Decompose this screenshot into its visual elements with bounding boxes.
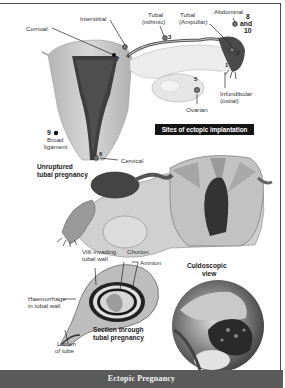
label-lumen-line1: Lumen [57, 340, 76, 347]
unruptured-tubal-pregnancy-drawing [57, 156, 272, 258]
site-number-3: 3 [168, 34, 171, 40]
label-amnion: Amnion [140, 259, 161, 266]
uterus-diagram [42, 37, 245, 161]
abdominal-site-number-10: 10 [244, 27, 252, 34]
site-number-5: 5 [194, 76, 197, 82]
label-abdominal: Abdominal [214, 8, 243, 15]
sites-of-ectopic-implantation-badge: Sites of ectopic implantation [155, 124, 254, 135]
site-number-7: 7 [116, 56, 119, 62]
label-section-caption-line2: tubal pregnancy [93, 334, 144, 342]
label-haemorrhage-line2: in tubal wall [28, 302, 60, 309]
site-number-2: 2 [236, 50, 239, 56]
label-chorion: Chorion [127, 248, 149, 255]
label-broad-ligament-line1: Broad [47, 136, 64, 143]
label-tubal-isthmic-line1: Tubal [148, 11, 163, 18]
label-haemorrhage-line1: Haemorrhage [28, 295, 66, 302]
broad-ligament-site-number: 9 [47, 129, 51, 136]
label-infundibular-line1: Infundibular [220, 90, 252, 97]
label-ovarian: Ovarian [186, 106, 208, 113]
label-villi-line2: tubal wall [82, 255, 108, 262]
culdoscopic-view-circle [172, 280, 264, 372]
label-culdoscopic-line2: view [202, 270, 216, 278]
label-villi-line1: Villi invading [82, 248, 116, 255]
label-broad-ligament-line2: ligament [44, 143, 67, 150]
label-tubal-ampullar-line2: (Ampullar) [179, 18, 208, 25]
label-culdoscopic-line1: Culdoscopic [187, 262, 227, 270]
abdominal-site-and: and [240, 20, 252, 27]
label-infundibular-line2: (ostial) [220, 97, 239, 104]
label-cornual: Cornual [26, 25, 48, 32]
site-number-4: 4 [126, 53, 129, 59]
site-number-1: 1 [225, 62, 228, 68]
label-cervical: Cervical [121, 157, 143, 164]
site-number-6: 6 [99, 151, 102, 157]
abdominal-site-number-8: 8 [246, 13, 250, 20]
label-section-caption-line1: Section through [93, 326, 144, 334]
label-unruptured-line2: tubal pregnancy [37, 171, 88, 179]
figure-caption: Ectopic Pregnancy [0, 370, 283, 388]
label-interstitial: Interstitial [80, 15, 106, 22]
label-tubal-ampullar-line1: Tubal [180, 11, 195, 18]
label-unruptured-line1: Unruptured [37, 163, 73, 171]
label-tubal-isthmic-line2: (isthmic) [142, 18, 165, 25]
label-lumen-line2: of tube [55, 347, 74, 354]
